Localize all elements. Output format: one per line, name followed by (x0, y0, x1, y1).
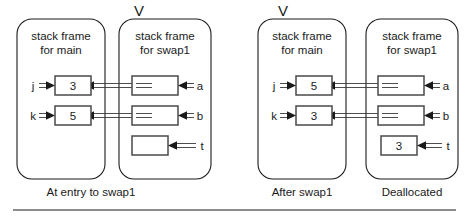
frame-title-right-main-line1: stack frame (272, 30, 331, 42)
cell-value-right-swap1-t: 3 (396, 140, 402, 152)
var-arrow-left-a: a (178, 80, 204, 92)
caption-right-swap1: Deallocated (382, 186, 443, 198)
var-label-right-k: k (271, 110, 277, 122)
cell-box-left-swap1-a (132, 76, 178, 95)
var-arrow-left-j: j (31, 80, 55, 92)
connector-left-b-to-k (85, 111, 133, 120)
var-label-right-b: b (443, 110, 449, 122)
cell-box-left-swap1-t (132, 136, 168, 155)
frame-title-left-main-line2: for main (40, 44, 82, 56)
connector-right-b-to-k (326, 111, 379, 120)
var-label-left-j: j (31, 80, 35, 92)
connector-right-a-to-j (326, 81, 379, 90)
frame-left-main (17, 19, 105, 179)
cell-value-right-main-j: 5 (311, 80, 317, 92)
frame-title-right-main-line2: for main (281, 44, 323, 56)
var-arrow-right-a: a (424, 80, 450, 92)
var-arrow-right-t: t (417, 140, 450, 152)
var-arrow-right-j: j (272, 80, 296, 92)
connector-left-a-to-j (85, 81, 133, 90)
cell-box-right-swap1-a (378, 76, 424, 95)
var-label-left-k: k (30, 110, 36, 122)
caption-left-panel: At entry to swap1 (47, 186, 136, 198)
frame-title-right-swap1-line1: stack frame (382, 30, 441, 42)
var-label-right-t: t (446, 140, 450, 152)
var-arrow-left-k: k (30, 110, 55, 122)
var-arrow-left-t: t (168, 140, 204, 152)
var-label-right-a: a (443, 80, 450, 92)
v-marker-left: V (134, 2, 144, 19)
var-arrow-left-b: b (178, 110, 203, 122)
frame-title-left-swap1-line2: for swap1 (140, 44, 190, 56)
var-label-left-a: a (197, 80, 204, 92)
caption-right-main: After swap1 (272, 186, 333, 198)
cell-value-left-main-j: 3 (70, 80, 76, 92)
cell-value-right-main-k: 3 (311, 110, 317, 122)
frame-title-left-swap1-line1: stack frame (135, 30, 194, 42)
frame-title-right-swap1-line2: for swap1 (387, 44, 437, 56)
diagram-canvas: V V stack frame for main stack frame for… (0, 0, 469, 219)
frame-title-left-main-line1: stack frame (31, 30, 90, 42)
var-label-left-b: b (197, 110, 203, 122)
v-marker-right: V (278, 2, 288, 19)
cell-box-left-swap1-b (132, 106, 178, 125)
cell-value-left-main-k: 5 (70, 110, 76, 122)
cell-box-right-swap1-b (378, 106, 424, 125)
var-arrow-right-b: b (424, 110, 449, 122)
frame-right-main (258, 19, 346, 179)
var-label-right-j: j (272, 80, 276, 92)
var-arrow-right-k: k (271, 110, 296, 122)
var-label-left-t: t (200, 140, 204, 152)
